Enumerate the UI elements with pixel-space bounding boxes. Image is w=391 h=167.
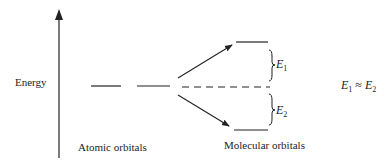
energy-axis [55,9,63,158]
orbital-diagram [0,0,391,167]
gap-label-e2: E2 [276,103,287,119]
arrow-up [178,45,232,78]
brace-lower [269,94,275,125]
axis-arrow-icon [55,9,63,20]
energy-axis-label: Energy [15,76,47,88]
molecular-orbitals-label: Molecular orbitals [224,139,305,151]
energy-relation: E1 ≈ E2 [341,78,376,94]
atomic-orbitals-label: Atomic orbitals [78,141,147,153]
gap-label-e1: E1 [276,57,287,73]
brace-upper [269,50,275,81]
arrow-down [178,95,229,126]
